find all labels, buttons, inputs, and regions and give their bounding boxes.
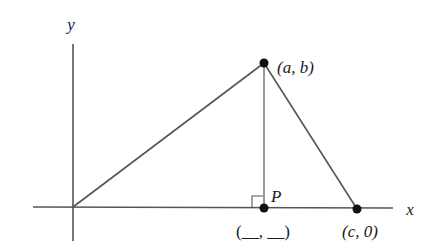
foot-point-P (260, 204, 269, 213)
y-axis-label: y (65, 15, 75, 34)
apex-label: (a, b) (277, 58, 314, 77)
base-label: (c, 0) (342, 222, 378, 241)
x-axis (33, 207, 393, 208)
apex-point (260, 59, 269, 68)
foot-coordinate-blank: (__, __) (236, 222, 290, 241)
x-axis-label: x (405, 200, 414, 219)
triangle-diagram: y x (a, b) P (__, __) (c, 0) (0, 0, 434, 250)
base-point (353, 205, 362, 214)
side-origin-to-apex (73, 63, 264, 207)
foot-name-label: P (270, 187, 281, 206)
